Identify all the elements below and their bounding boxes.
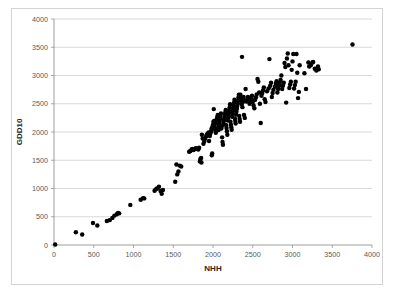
- data-point: [243, 87, 247, 91]
- data-point: [220, 135, 224, 139]
- data-point: [142, 196, 146, 200]
- data-point: [128, 203, 132, 207]
- data-point: [289, 68, 293, 72]
- y-tick-label: 0: [44, 241, 48, 250]
- data-point: [256, 79, 260, 83]
- data-point: [225, 133, 229, 137]
- data-point: [179, 164, 183, 168]
- data-point: [197, 146, 201, 150]
- data-point: [296, 96, 300, 100]
- data-point: [252, 106, 256, 110]
- data-point: [250, 94, 254, 98]
- data-point: [350, 42, 354, 46]
- data-point: [258, 121, 262, 125]
- y-tick-label: 2000: [32, 128, 48, 137]
- data-point: [95, 223, 99, 227]
- data-point: [270, 95, 274, 99]
- data-point: [210, 151, 214, 155]
- data-point: [304, 87, 308, 91]
- data-point: [297, 63, 301, 67]
- data-point: [267, 57, 271, 61]
- data-point: [289, 79, 293, 83]
- data-point: [219, 111, 223, 115]
- data-point: [262, 85, 266, 89]
- data-point: [199, 160, 203, 164]
- data-point: [263, 100, 267, 104]
- data-point: [229, 128, 233, 132]
- data-point: [282, 81, 286, 85]
- data-point: [243, 116, 247, 120]
- data-point: [117, 211, 121, 215]
- data-point: [294, 52, 298, 56]
- data-point: [285, 56, 289, 60]
- y-tick-label: 1000: [32, 184, 48, 193]
- data-point: [293, 79, 297, 83]
- data-point: [238, 120, 242, 124]
- data-point: [279, 73, 283, 77]
- x-tick-label: 1500: [165, 250, 181, 259]
- x-tick-label: 4000: [364, 250, 380, 259]
- x-tick-label: 500: [88, 250, 100, 259]
- data-point: [269, 81, 273, 85]
- chart-frame: 0500100015002000250030003500400005001000…: [11, 8, 383, 285]
- scatter-plot: 0500100015002000250030003500400005001000…: [12, 9, 382, 284]
- data-point: [221, 142, 225, 146]
- y-tick-label: 3000: [32, 71, 48, 80]
- data-point: [176, 169, 180, 173]
- data-point: [207, 139, 211, 143]
- x-axis-title: NHH: [204, 264, 222, 273]
- data-point: [317, 67, 321, 71]
- data-point: [74, 230, 78, 234]
- data-point: [286, 51, 290, 55]
- data-point: [311, 60, 315, 64]
- data-point: [212, 107, 216, 111]
- y-tick-label: 3500: [32, 43, 48, 52]
- data-point: [284, 100, 288, 104]
- data-point: [173, 179, 177, 183]
- x-tick-label: 1000: [126, 250, 142, 259]
- x-tick-label: 0: [52, 250, 56, 259]
- data-point: [282, 61, 286, 65]
- data-point: [199, 156, 203, 160]
- data-point: [157, 185, 161, 189]
- data-point: [91, 221, 95, 225]
- data-point: [159, 192, 163, 196]
- y-tick-label: 500: [36, 212, 48, 221]
- data-point: [240, 105, 244, 109]
- x-tick-label: 3500: [324, 250, 340, 259]
- data-point: [161, 188, 165, 192]
- data-point: [286, 63, 290, 67]
- data-point: [290, 59, 294, 63]
- data-point: [200, 133, 204, 137]
- y-tick-label: 2500: [32, 99, 48, 108]
- x-tick-label: 3000: [285, 250, 301, 259]
- data-point: [53, 242, 57, 246]
- data-point: [297, 90, 301, 94]
- data-point: [258, 102, 262, 106]
- data-series: [53, 42, 355, 246]
- data-point: [240, 55, 244, 59]
- x-tick-label: 2500: [245, 250, 261, 259]
- y-tick-label: 4000: [32, 15, 48, 24]
- data-point: [302, 71, 306, 75]
- data-point: [233, 121, 237, 125]
- y-tick-label: 1500: [32, 156, 48, 165]
- data-point: [295, 70, 299, 74]
- data-point: [80, 232, 84, 236]
- y-axis-title: GDD10: [15, 118, 24, 145]
- x-tick-label: 2000: [205, 250, 221, 259]
